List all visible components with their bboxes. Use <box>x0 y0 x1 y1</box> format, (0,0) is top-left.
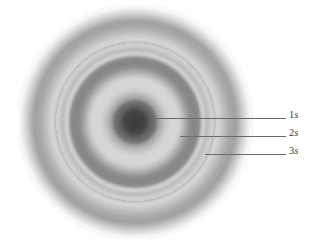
orbital-label-3s-s: s <box>294 145 298 156</box>
annotation-layer: 1s 2s 3s <box>0 0 318 244</box>
orbital-label-2s-s: s <box>294 127 298 138</box>
orbital-figure: 1s 2s 3s <box>0 0 318 244</box>
leader-line-2s <box>180 136 286 137</box>
orbital-label-1s-s: s <box>294 109 298 120</box>
orbital-label-3s: 3s <box>289 145 299 156</box>
leader-line-3s <box>205 154 286 155</box>
orbital-label-1s: 1s <box>289 109 299 120</box>
orbital-label-2s: 2s <box>289 127 299 138</box>
leader-line-1s <box>150 118 286 119</box>
